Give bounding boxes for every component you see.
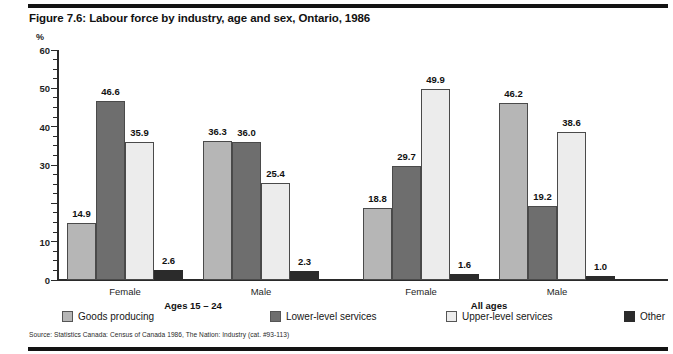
y-axis-tick-labels: 01030405060 xyxy=(28,50,50,280)
bar-female-other xyxy=(450,274,479,280)
y-axis-tick-label: 60 xyxy=(39,45,50,56)
bar-value-label: 29.7 xyxy=(397,151,416,162)
y-axis-tick-minor xyxy=(53,270,57,271)
y-axis-tick-minor xyxy=(53,136,57,137)
top-rule xyxy=(28,4,668,8)
y-axis-tick-label: 50 xyxy=(39,83,50,94)
bar-value-label: 2.3 xyxy=(298,256,311,267)
bar-female-goods-producing xyxy=(67,223,96,280)
y-axis-tick-minor xyxy=(53,78,57,79)
bar-value-label: 46.2 xyxy=(504,88,523,99)
bar-value-label: 35.9 xyxy=(130,127,149,138)
bottom-rule xyxy=(28,347,668,351)
legend-label: Lower-level services xyxy=(286,311,377,322)
chart-plot-area: 14.946.635.92.6Female36.336.025.42.3Male… xyxy=(57,50,668,280)
y-axis-tick-major xyxy=(51,241,57,242)
bar-female-lower-level-services xyxy=(96,101,125,280)
bar-male-upper-level-services xyxy=(261,183,290,280)
bar-value-label: 49.9 xyxy=(426,74,445,85)
y-axis-unit-label: % xyxy=(36,32,44,42)
bar-value-label: 1.0 xyxy=(594,261,607,272)
bar-value-label: 36.0 xyxy=(237,127,256,138)
bar-male-goods-producing xyxy=(203,141,232,280)
x-axis-category-label: Male xyxy=(547,286,568,297)
y-axis-tick-minor xyxy=(53,117,57,118)
chart-legend: Goods producingLower-level servicesUpper… xyxy=(57,311,668,327)
y-axis-tick-minor xyxy=(53,260,57,261)
y-axis-tick-minor xyxy=(53,232,57,233)
y-axis-tick-major xyxy=(51,50,57,51)
y-axis-tick-minor xyxy=(53,155,57,156)
y-axis-tick-label: 30 xyxy=(39,160,50,171)
y-axis-tick-label: 0 xyxy=(45,275,50,286)
y-axis-tick-major xyxy=(51,165,57,166)
bar-female-upper-level-services xyxy=(125,142,154,280)
legend-item-upper-level-services: Upper-level services xyxy=(446,311,553,322)
bar-female-goods-producing xyxy=(363,208,392,280)
bar-value-label: 18.8 xyxy=(368,193,387,204)
legend-swatch-icon xyxy=(446,311,457,322)
legend-swatch-icon xyxy=(62,311,73,322)
bar-value-label: 46.6 xyxy=(101,86,120,97)
source-note: Source: Statistics Canada: Census of Can… xyxy=(29,331,289,338)
y-axis-tick-major xyxy=(51,203,57,204)
bar-male-upper-level-services xyxy=(557,132,586,280)
y-axis-tick-minor xyxy=(53,251,57,252)
legend-swatch-icon xyxy=(624,311,635,322)
page-title: Figure 7.6: Labour force by industry, ag… xyxy=(29,12,370,24)
y-axis-line xyxy=(57,50,59,280)
bar-value-label: 36.3 xyxy=(208,126,227,137)
x-axis-category-label: Male xyxy=(251,286,272,297)
y-axis-tick-minor xyxy=(53,174,57,175)
x-axis-category-label: Female xyxy=(109,286,141,297)
y-axis-tick-minor xyxy=(53,69,57,70)
y-axis-tick-label: 40 xyxy=(39,121,50,132)
bar-female-other xyxy=(154,270,183,280)
y-axis-tick-minor xyxy=(53,184,57,185)
bar-male-goods-producing xyxy=(499,103,528,280)
legend-label: Goods producing xyxy=(78,311,154,322)
x-axis-group-label: Ages 15 – 24 xyxy=(164,300,222,311)
y-axis-tick-major xyxy=(51,280,57,281)
y-axis-tick-minor xyxy=(53,193,57,194)
legend-item-goods-producing: Goods producing xyxy=(62,311,154,322)
y-axis-tick-minor xyxy=(53,222,57,223)
y-axis-tick-label: 10 xyxy=(39,236,50,247)
bar-male-other xyxy=(586,276,615,280)
y-axis-tick-major xyxy=(51,126,57,127)
bar-female-upper-level-services xyxy=(421,89,450,280)
bar-male-other xyxy=(290,271,319,280)
legend-label: Upper-level services xyxy=(462,311,553,322)
y-axis-tick-minor xyxy=(53,145,57,146)
legend-item-lower-level-services: Lower-level services xyxy=(270,311,377,322)
bar-male-lower-level-services xyxy=(232,142,261,280)
y-axis-tick-major xyxy=(51,88,57,89)
figure-page: Figure 7.6: Labour force by industry, ag… xyxy=(0,0,673,354)
x-axis-group-label: All ages xyxy=(471,300,507,311)
bar-value-label: 14.9 xyxy=(72,208,91,219)
x-axis-category-label: Female xyxy=(405,286,437,297)
legend-label: Other xyxy=(640,311,665,322)
legend-item-other: Other xyxy=(624,311,665,322)
legend-swatch-icon xyxy=(270,311,281,322)
y-axis-tick-minor xyxy=(53,59,57,60)
bar-female-lower-level-services xyxy=(392,166,421,280)
bar-value-label: 38.6 xyxy=(562,117,581,128)
y-axis-tick-minor xyxy=(53,107,57,108)
y-axis-tick-minor xyxy=(53,212,57,213)
bar-value-label: 1.6 xyxy=(458,259,471,270)
bar-value-label: 25.4 xyxy=(266,168,285,179)
y-axis-tick-minor xyxy=(53,97,57,98)
bar-value-label: 19.2 xyxy=(533,191,552,202)
bar-male-lower-level-services xyxy=(528,206,557,280)
bar-value-label: 2.6 xyxy=(162,255,175,266)
